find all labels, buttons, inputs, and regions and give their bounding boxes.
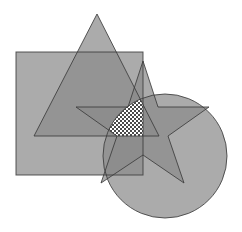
diagram-canvas xyxy=(0,0,242,232)
overlapping-shapes-diagram xyxy=(0,0,242,232)
